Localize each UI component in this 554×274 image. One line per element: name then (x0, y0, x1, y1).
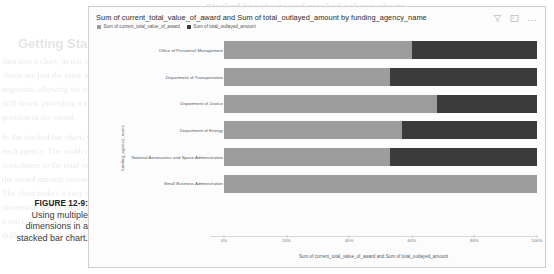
bar-track (224, 121, 537, 139)
figure-caption-label: FIGURE 12-9: (2, 198, 88, 210)
bar-track (224, 148, 537, 166)
chart-card: Sum of current_total_value_of_award and … (88, 6, 546, 268)
chart-card-header: Sum of current_total_value_of_award and … (89, 7, 545, 33)
bar-row[interactable]: Department of Transportation (111, 68, 537, 86)
bar-segment-series-1[interactable] (224, 95, 437, 113)
bar-category-label: Department of Justice (180, 101, 223, 106)
bar-category-label: Department of Transportation (166, 75, 223, 80)
bar-category-label: Office of Personnel Management (159, 48, 223, 53)
bar-track (224, 175, 537, 193)
figure-caption: FIGURE 12-9: Using multiple dimensions i… (2, 198, 88, 244)
legend-item-series-2[interactable]: Sum of total_outlayed_amount (187, 24, 256, 29)
legend-swatch-series-1 (97, 25, 101, 29)
bar-segment-series-1[interactable] (224, 148, 390, 166)
more-options-icon[interactable]: ... (526, 13, 539, 24)
chart-plot-area: funding_agency_name Office of Personnel … (97, 35, 539, 261)
bar-track (224, 68, 537, 86)
bar-segment-series-1[interactable] (224, 68, 390, 86)
legend-label-series-2: Sum of total_outlayed_amount (193, 24, 255, 29)
bar-segment-series-2[interactable] (437, 95, 537, 113)
bar-category-label: Small Business Administration (164, 181, 223, 186)
x-axis-title: Sum of current_total_value_of_award and … (210, 254, 537, 259)
legend-item-series-1[interactable]: Sum of current_total_value_of_award (97, 24, 180, 29)
bar-row[interactable]: Small Business Administration (111, 175, 537, 193)
x-tick-label: 60% (407, 238, 416, 243)
bar-segment-series-2[interactable] (412, 41, 537, 59)
bar-segment-series-1[interactable] (224, 121, 402, 139)
bar-segment-series-2[interactable] (390, 68, 537, 86)
x-tick-label: 0% (221, 238, 227, 243)
chart-card-toolbar: ... (492, 13, 539, 24)
bar-category-label: Department of Energy (180, 128, 223, 133)
chart-legend: Sum of current_total_value_of_award Sum … (97, 24, 256, 29)
x-tick-label: 100% (532, 238, 543, 243)
x-axis-ticks: 0%20%40%60%80%100% (224, 238, 537, 247)
x-tick-label: 40% (345, 238, 354, 243)
bar-segment-series-1[interactable] (224, 41, 412, 59)
bars-region: Office of Personnel ManagementDepartment… (111, 37, 537, 237)
bar-track (224, 95, 537, 113)
figure-caption-text: Using multiple dimensions in a stacked b… (2, 210, 88, 245)
legend-label-series-1: Sum of current_total_value_of_award (104, 24, 180, 29)
legend-swatch-series-2 (187, 25, 191, 29)
filter-icon[interactable] (492, 13, 503, 24)
bar-row[interactable]: Department of Energy (111, 121, 537, 139)
bar-segment-series-1[interactable] (224, 175, 537, 193)
bar-category-label: National Aeronautics and Space Administr… (131, 155, 223, 160)
x-tick-label: 20% (282, 238, 291, 243)
bar-row[interactable]: Department of Justice (111, 95, 537, 113)
bar-track (224, 41, 537, 59)
bleed-line: position in the visual. (2, 112, 76, 122)
bar-row[interactable]: Office of Personnel Management (111, 41, 537, 59)
bar-segment-series-2[interactable] (402, 121, 537, 139)
chart-title: Sum of current_total_value_of_award and … (96, 13, 427, 22)
x-axis-line (210, 236, 537, 237)
bar-segment-series-2[interactable] (390, 148, 537, 166)
bar-row[interactable]: National Aeronautics and Space Administr… (111, 148, 537, 166)
x-tick-label: 80% (470, 238, 479, 243)
focus-mode-icon[interactable] (509, 13, 520, 24)
